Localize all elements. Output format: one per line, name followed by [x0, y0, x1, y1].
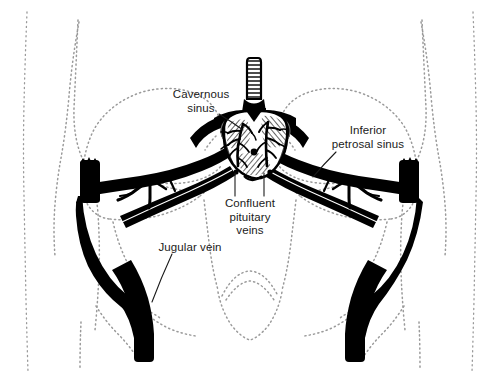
label-confluent-pituitary-veins-line2: pituitary	[212, 211, 288, 225]
anatomy-illustration	[0, 0, 499, 391]
label-inferior-petrosal-sinus: Inferior petrosal sinus	[322, 124, 414, 151]
sigmoid-sinus-left	[80, 160, 100, 203]
pituitary-stalk	[247, 58, 261, 99]
label-inferior-petrosal-sinus-line2: petrosal sinus	[322, 138, 414, 152]
anatomy-figure: Cavernous sinus Inferior petrosal sinus …	[0, 0, 499, 391]
label-cavernous-sinus-line1: Cavernous	[160, 88, 242, 102]
label-inferior-petrosal-sinus-line1: Inferior	[322, 124, 414, 138]
label-confluent-pituitary-veins-line1: Confluent	[212, 197, 288, 211]
label-cavernous-sinus: Cavernous sinus	[160, 88, 242, 115]
label-confluent-pituitary-veins-line3: veins	[212, 224, 288, 238]
sigmoid-sinus-right	[399, 160, 419, 203]
label-confluent-pituitary-veins: Confluent pituitary veins	[212, 197, 288, 238]
label-cavernous-sinus-line2: sinus	[160, 102, 242, 116]
label-jugular-vein: Jugular vein	[150, 241, 230, 255]
label-jugular-vein-line1: Jugular vein	[150, 241, 230, 255]
